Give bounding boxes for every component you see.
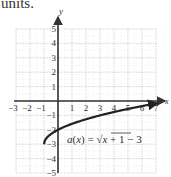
y-tick-label: 3 [52,53,57,63]
y-axis-label: y [58,6,63,16]
x-tick-label: −3 [8,103,18,113]
y-tick-label: −5 [46,168,56,177]
function-label: a(x) = √x + 1 − 3 [67,133,142,146]
y-tick-label: 4 [52,38,57,48]
x-tick-label: 2 [84,103,89,113]
graph: xy−3−2−1123456754321−1−2−3−4−5a(x) = √x … [0,0,171,177]
x-tick-label: −1 [36,103,46,113]
x-tick-label: 6 [140,103,145,113]
y-tick-label: −1 [46,110,56,120]
y-tick-label: 5 [52,24,57,34]
y-tick-label: −3 [46,139,56,149]
x-tick-label: 3 [98,103,103,113]
x-tick-label: −2 [22,103,32,113]
y-tick-label: 1 [52,82,57,92]
y-tick-label: 2 [52,67,57,77]
x-axis-label: x [164,97,169,106]
y-tick-label: −4 [46,154,56,164]
x-tick-label: 1 [70,103,75,113]
